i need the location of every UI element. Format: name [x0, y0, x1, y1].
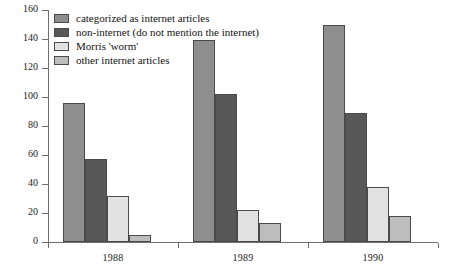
y-tick-label: 100: [4, 90, 38, 101]
y-tick-label: 80: [4, 119, 38, 130]
legend-item: Morris 'worm': [54, 40, 259, 53]
bar: [367, 187, 389, 242]
y-tick: [42, 126, 48, 127]
legend-label: non-internet (do not mention the interne…: [76, 27, 259, 38]
bar: [85, 159, 107, 242]
legend-swatch-icon: [54, 42, 69, 51]
y-tick: [42, 68, 48, 69]
bar: [237, 210, 259, 242]
y-tick: [42, 97, 48, 98]
x-axis-line: [48, 242, 438, 243]
y-tick: [42, 184, 48, 185]
x-tick: [178, 243, 179, 248]
y-tick-label: 140: [4, 32, 38, 43]
chart-legend: categorized as internet articlesnon-inte…: [54, 12, 259, 67]
bar: [323, 25, 345, 243]
x-tick: [308, 243, 309, 248]
y-tick: [42, 213, 48, 214]
x-group-label: 1990: [308, 252, 438, 263]
bar-chart: 020406080100120140160 198819891990 categ…: [0, 0, 454, 279]
bar: [107, 196, 129, 242]
y-tick: [42, 155, 48, 156]
y-tick-label: 20: [4, 206, 38, 217]
legend-item: non-internet (do not mention the interne…: [54, 26, 259, 39]
legend-swatch-icon: [54, 56, 69, 65]
y-tick: [42, 10, 48, 11]
y-tick-label: 160: [4, 3, 38, 14]
y-tick-label: 60: [4, 148, 38, 159]
bar: [259, 223, 281, 242]
legend-swatch-icon: [54, 28, 69, 37]
bar: [129, 235, 151, 242]
bar: [389, 216, 411, 242]
x-tick: [438, 243, 439, 248]
x-group-label: 1989: [178, 252, 308, 263]
legend-item: other internet articles: [54, 54, 259, 67]
y-tick-label: 0: [4, 235, 38, 246]
y-tick-label: 40: [4, 177, 38, 188]
legend-label: Morris 'worm': [76, 41, 138, 52]
bar: [215, 94, 237, 242]
x-tick: [48, 243, 49, 248]
x-group-label: 1988: [48, 252, 178, 263]
legend-label: categorized as internet articles: [76, 13, 209, 24]
legend-label: other internet articles: [76, 55, 169, 66]
legend-swatch-icon: [54, 14, 69, 23]
bar: [345, 113, 367, 242]
y-tick-label: 120: [4, 61, 38, 72]
bar: [63, 103, 85, 242]
legend-item: categorized as internet articles: [54, 12, 259, 25]
y-tick: [42, 39, 48, 40]
bar: [193, 40, 215, 242]
